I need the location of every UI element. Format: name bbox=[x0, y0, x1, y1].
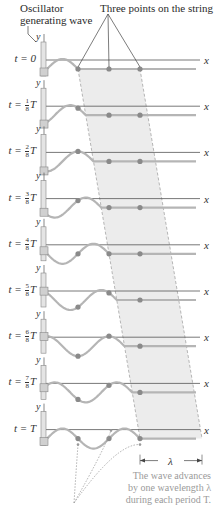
string-point-dot bbox=[75, 397, 80, 402]
oscillator-label-line1: Oscillator bbox=[20, 2, 92, 14]
arrowhead-right-icon bbox=[197, 459, 202, 463]
string-point-dot bbox=[137, 205, 142, 210]
string-point-dot bbox=[75, 198, 80, 203]
string-point-dot bbox=[137, 436, 142, 441]
caption-line2: by one wavelength λ bbox=[126, 482, 211, 494]
caption: The wave advances by one wavelength λ du… bbox=[126, 470, 211, 506]
oscillator-block bbox=[40, 208, 48, 216]
y-axis-label: y bbox=[35, 308, 41, 319]
oscillator-label-line2: generating wave bbox=[20, 14, 92, 26]
x-axis-label: x bbox=[203, 377, 209, 389]
string-point-dot bbox=[106, 383, 111, 388]
time-label: t = 28T bbox=[0, 144, 36, 159]
y-axis-label: y bbox=[35, 170, 41, 181]
oscillator-block bbox=[40, 68, 48, 76]
arrowhead-left-icon bbox=[140, 459, 145, 463]
fraction: 18 bbox=[25, 98, 29, 113]
string-point-dot bbox=[106, 66, 111, 71]
x-axis-label: x bbox=[203, 285, 209, 297]
fraction: 48 bbox=[25, 237, 29, 252]
string-point-dot bbox=[106, 290, 111, 295]
time-label: t = 48T bbox=[0, 237, 36, 252]
string-point-dot bbox=[137, 251, 142, 256]
x-axis-label: x bbox=[203, 331, 209, 343]
callout-line bbox=[108, 14, 140, 67]
string-point-dot bbox=[137, 113, 142, 118]
string-point-dot bbox=[75, 304, 80, 309]
oscillator-block bbox=[40, 247, 48, 255]
time-label: t = 58T bbox=[0, 283, 36, 298]
time-label: t = 0 bbox=[0, 52, 36, 64]
dotted-arrow bbox=[74, 445, 78, 503]
string-point-dot bbox=[106, 251, 111, 256]
time-label: t = 38T bbox=[0, 191, 36, 206]
oscillator-block bbox=[40, 333, 48, 341]
fraction: 78 bbox=[25, 375, 29, 390]
oscillator-rod bbox=[41, 88, 46, 122]
fraction: 68 bbox=[25, 329, 29, 344]
y-axis-label: y bbox=[35, 31, 41, 42]
string-point-dot bbox=[75, 149, 80, 154]
fraction: 38 bbox=[25, 191, 29, 206]
time-label: t = 18T bbox=[0, 98, 36, 113]
string-point-dot bbox=[106, 205, 111, 210]
oscillator-callout bbox=[28, 26, 36, 42]
callout-line bbox=[108, 14, 109, 67]
string-point-dot bbox=[137, 66, 142, 71]
oscillator-label: Oscillator generating wave bbox=[20, 2, 92, 26]
time-label: t = T bbox=[0, 422, 36, 434]
fraction: 28 bbox=[25, 144, 29, 159]
x-axis-label: x bbox=[203, 100, 209, 112]
string-point-dot bbox=[106, 159, 111, 164]
y-axis-label: y bbox=[35, 123, 41, 134]
y-axis-label: y bbox=[35, 354, 41, 365]
string-point-dot bbox=[75, 66, 80, 71]
string-point-dot bbox=[75, 436, 80, 441]
string-point-dot bbox=[75, 106, 80, 111]
y-axis-label: y bbox=[35, 216, 41, 227]
y-axis-label: y bbox=[35, 77, 41, 88]
dotted-arrow-head-icon bbox=[139, 443, 142, 446]
string-point-dot bbox=[75, 354, 80, 359]
oscillator-rod bbox=[41, 227, 46, 261]
time-label: t = 78T bbox=[0, 375, 36, 390]
x-axis-label: x bbox=[203, 424, 209, 436]
time-label: t = 68T bbox=[0, 329, 36, 344]
string-point-dot bbox=[75, 251, 80, 256]
dotted-arrow-head-icon bbox=[77, 443, 80, 446]
caption-line3: during each period T. bbox=[126, 494, 211, 506]
x-axis-label: x bbox=[203, 239, 209, 251]
wavelength-label: λ bbox=[167, 455, 173, 467]
string-point-dot bbox=[137, 344, 142, 349]
string-point-dot bbox=[106, 334, 111, 339]
x-axis-label: x bbox=[203, 193, 209, 205]
oscillator-block bbox=[40, 438, 48, 446]
oscillator-block bbox=[40, 287, 48, 295]
oscillator-rod bbox=[41, 365, 46, 399]
x-axis-label: x bbox=[203, 146, 209, 158]
x-axis-label: x bbox=[203, 54, 209, 66]
caption-line1: The wave advances bbox=[126, 470, 211, 482]
string-point-dot bbox=[137, 390, 142, 395]
string-point-dot bbox=[106, 113, 111, 118]
string-point-dot bbox=[137, 159, 142, 164]
y-axis-label: y bbox=[35, 401, 41, 412]
string-point-dot bbox=[137, 297, 142, 302]
string-wave bbox=[44, 59, 196, 72]
dotted-arrow-head-icon bbox=[110, 429, 113, 432]
fraction: 58 bbox=[25, 283, 29, 298]
three-points-label: Three points on the string bbox=[100, 2, 213, 14]
oscillator-block bbox=[40, 384, 48, 392]
oscillator-rod bbox=[41, 134, 46, 168]
y-axis-label: y bbox=[35, 262, 41, 273]
